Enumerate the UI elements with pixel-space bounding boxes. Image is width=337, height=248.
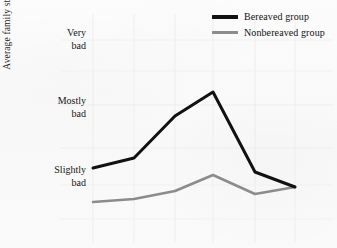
y-axis-tick-label-very-bad: Very bad [14,27,86,52]
y-tick-line-1: Slightly [54,164,86,175]
y-tick-line-1: Very [67,27,86,38]
legend-swatch-icon-nonbereaved [212,31,238,34]
y-axis-title: Average family stress [0,0,14,92]
y-axis-tick-label-slightly-bad: Slightly bad [14,164,86,189]
gridlines-horizontal [60,40,333,219]
y-tick-line-2: bad [14,40,86,53]
gridlines-vertical [93,14,295,243]
series-line-nonbereaved [93,175,295,202]
y-axis-tick-label-mostly-bad: Mostly bad [14,95,86,120]
legend-item-bereaved: Bereaved group [212,11,325,22]
y-tick-line-1: Mostly [58,95,86,106]
legend-label-nonbereaved: Nonbereaved group [244,27,325,38]
chart-figure: Average family stress Very bad Mostly ba… [0,0,337,248]
y-tick-line-2: bad [14,177,86,190]
legend-label-bereaved: Bereaved group [244,11,309,22]
chart-legend: Bereaved group Nonbereaved group [212,11,325,38]
y-tick-line-2: bad [14,108,86,121]
legend-item-nonbereaved: Nonbereaved group [212,27,325,38]
legend-swatch-icon-bereaved [212,15,238,19]
series-line-bereaved [93,92,295,187]
